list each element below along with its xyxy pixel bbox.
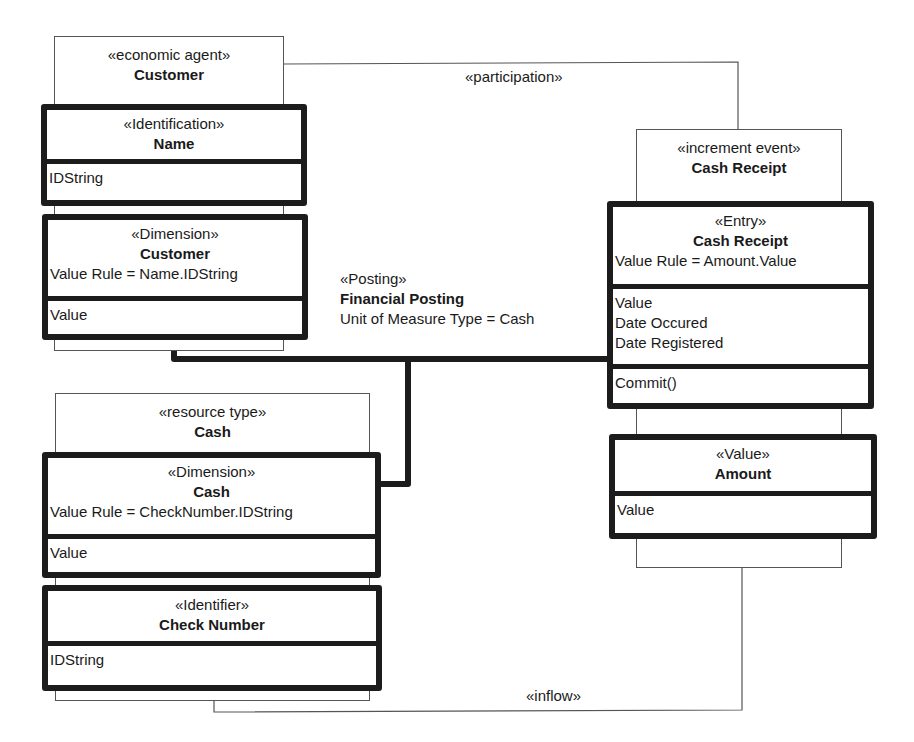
- stereotype-label: «Value»: [615, 444, 871, 464]
- participation-label: «participation»: [465, 67, 563, 87]
- class-customer-dimension[interactable]: «Dimension» Customer Value Rule = Name.I…: [42, 214, 308, 340]
- posting-name: Financial Posting: [340, 289, 534, 309]
- posting-line-cash: [380, 359, 408, 484]
- class-name: Customer: [55, 65, 283, 85]
- class-name: Check Number: [48, 615, 376, 635]
- attribute: Date Registered: [615, 333, 868, 353]
- class-name: Customer: [48, 244, 302, 264]
- attribute: Value: [617, 500, 871, 520]
- attribute: Value: [50, 543, 375, 563]
- class-cash-receipt-entry[interactable]: «Entry» Cash Receipt Value Rule = Amount…: [607, 201, 874, 409]
- operation: Commit(): [615, 373, 868, 393]
- stereotype-label: «increment event»: [637, 138, 841, 158]
- diagram-canvas: «economic agent» Customer «Identificatio…: [0, 0, 914, 742]
- value-rule: Value Rule = Name.IDString: [48, 264, 302, 284]
- attribute: Value: [50, 305, 302, 325]
- class-name: Name: [47, 134, 301, 154]
- stereotype-label: «Dimension»: [48, 224, 302, 244]
- value-rule: Value Rule = CheckNumber.IDString: [48, 502, 375, 522]
- stereotype-label: «Entry»: [613, 211, 868, 231]
- posting-rule: Unit of Measure Type = Cash: [340, 309, 534, 329]
- attribute: IDString: [49, 168, 301, 188]
- attribute: IDString: [50, 650, 376, 670]
- attribute: Date Occured: [615, 313, 868, 333]
- class-customer-name-identification[interactable]: «Identification» Name IDString: [41, 104, 307, 206]
- stereotype-label: «economic agent»: [55, 45, 283, 65]
- stereotype-label: «Dimension»: [48, 462, 375, 482]
- class-name: Cash Receipt: [637, 158, 841, 178]
- stereotype-label: «Identifier»: [48, 595, 376, 615]
- stereotype-label: «resource type»: [56, 402, 369, 422]
- posting-stereotype: «Posting»: [340, 269, 534, 289]
- stereotype-label: «Identification»: [47, 114, 301, 134]
- class-cash-dimension[interactable]: «Dimension» Cash Value Rule = CheckNumbe…: [42, 452, 381, 578]
- attribute: Value: [615, 293, 868, 313]
- class-check-number-identifier[interactable]: «Identifier» Check Number IDString: [42, 585, 382, 691]
- inflow-label: «inflow»: [526, 686, 581, 706]
- class-name: Amount: [615, 464, 871, 484]
- posting-label: «Posting» Financial Posting Unit of Meas…: [340, 269, 534, 329]
- class-amount-value[interactable]: «Value» Amount Value: [609, 434, 877, 539]
- value-rule: Value Rule = Amount.Value: [613, 251, 868, 271]
- class-name: Cash: [48, 482, 375, 502]
- class-name: Cash: [56, 422, 369, 442]
- class-name: Cash Receipt: [613, 231, 868, 251]
